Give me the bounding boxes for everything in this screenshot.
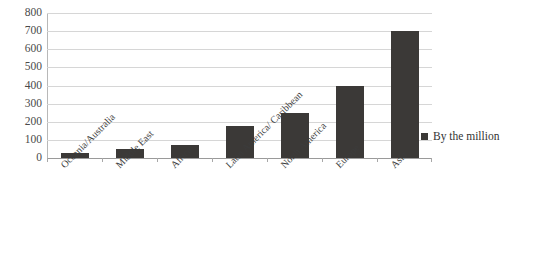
y-axis-tick-labels: 8007006005004003002001000 [0,13,42,158]
y-tick-label-500: 500 [2,62,42,74]
x-tick-mark [47,158,48,162]
x-tick-mark [157,158,158,162]
x-tick-mark [377,158,378,162]
legend-color-swatch [421,133,428,140]
y-tick-label-400: 400 [2,80,42,92]
chart-legend: By the million [421,131,499,143]
bar-slot [322,13,377,158]
x-tick-mark [102,158,103,162]
x-tick-mark [322,158,323,162]
y-tick-label-700: 700 [2,25,42,37]
bar-slot [157,13,212,158]
bar-chart: 8007006005004003002001000 Oceania/Austra… [0,0,535,267]
y-tick-label-200: 200 [2,116,42,128]
y-tick-label-600: 600 [2,44,42,56]
legend-entry-label: By the million [433,131,499,143]
y-tick-label-0: 0 [2,152,42,164]
bar [391,31,419,158]
x-axis-category-labels: Oceania/AustraliaMiddle EastAfricaLatin … [47,163,432,263]
y-tick-label-800: 800 [2,7,42,19]
x-tick-mark [431,158,432,162]
y-tick-label-300: 300 [2,98,42,110]
y-tick-label-100: 100 [2,134,42,146]
x-tick-mark [267,158,268,162]
x-tick-mark [212,158,213,162]
plot-area [47,13,432,158]
